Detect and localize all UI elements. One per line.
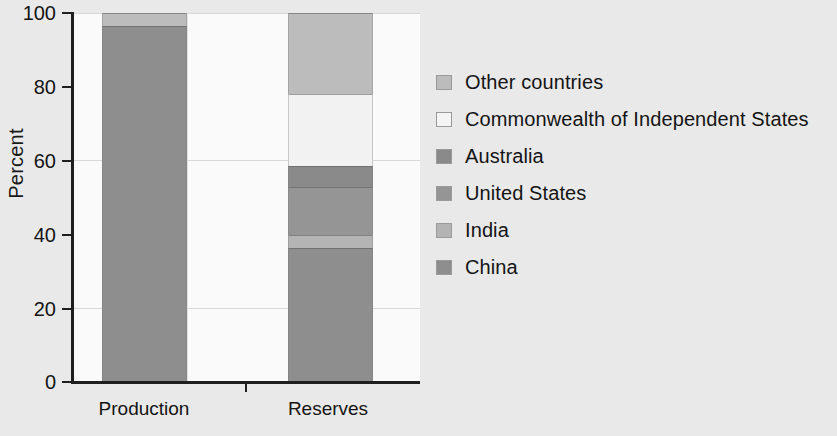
bar-production[interactable]	[102, 13, 187, 382]
legend-item-label: India	[465, 219, 509, 242]
legend-item-cis[interactable]: Commonwealth of Independent States	[436, 101, 809, 138]
legend-item-label: Commonwealth of Independent States	[465, 108, 809, 131]
legend-item-australia[interactable]: Australia	[436, 138, 809, 175]
bar-segment-production-china[interactable]	[102, 26, 187, 382]
legend-swatch-icon	[436, 186, 452, 201]
legend-item-india[interactable]: India	[436, 212, 809, 249]
legend-item-other-countries[interactable]: Other countries	[436, 64, 809, 101]
legend-swatch-icon	[436, 223, 452, 238]
bar-segment-production-other-countries[interactable]	[102, 13, 187, 26]
y-tick-label-100: 100	[23, 2, 56, 25]
bar-segment-reserves-other-countries[interactable]	[288, 13, 373, 94]
bar-segment-reserves-australia[interactable]	[288, 166, 373, 187]
legend-swatch-icon	[436, 75, 452, 90]
y-tick-label-60: 60	[34, 150, 56, 173]
y-axis-line	[71, 12, 74, 384]
bar-segment-reserves-cis[interactable]	[288, 94, 373, 166]
y-tick-100	[62, 12, 72, 14]
y-tick-80	[62, 86, 72, 88]
legend-item-united-states[interactable]: United States	[436, 175, 809, 212]
stacked-bar-chart: Percent 100 80 60 40 20 0	[0, 0, 837, 436]
legend-item-china[interactable]: China	[436, 249, 809, 286]
y-tick-0	[62, 381, 72, 383]
y-tick-20	[62, 308, 72, 310]
x-tick-label-production: Production	[64, 398, 224, 420]
y-axis-title: Percent	[5, 104, 28, 224]
legend-swatch-icon	[436, 260, 452, 275]
legend-item-label: China	[465, 256, 518, 279]
y-tick-label-40: 40	[34, 224, 56, 247]
y-tick-label-80: 80	[34, 76, 56, 99]
bar-segment-reserves-united-states[interactable]	[288, 187, 373, 235]
bar-segment-reserves-china[interactable]	[288, 248, 373, 382]
legend-swatch-icon	[436, 112, 452, 127]
y-tick-label-20: 20	[34, 298, 56, 321]
legend-item-label: United States	[465, 182, 586, 205]
legend-swatch-icon	[436, 149, 452, 164]
y-tick-label-0: 0	[45, 371, 56, 394]
bar-segment-reserves-india[interactable]	[288, 235, 373, 248]
plot-area	[72, 13, 420, 382]
legend-item-label: Australia	[465, 145, 544, 168]
legend: Other countries Commonwealth of Independ…	[436, 64, 809, 286]
vgridline-1	[187, 13, 188, 382]
x-tick-label-reserves: Reserves	[248, 398, 408, 420]
legend-item-label: Other countries	[465, 71, 603, 94]
bar-reserves[interactable]	[288, 13, 373, 382]
y-tick-40	[62, 234, 72, 236]
x-tick-middle	[245, 383, 247, 392]
y-tick-60	[62, 160, 72, 162]
